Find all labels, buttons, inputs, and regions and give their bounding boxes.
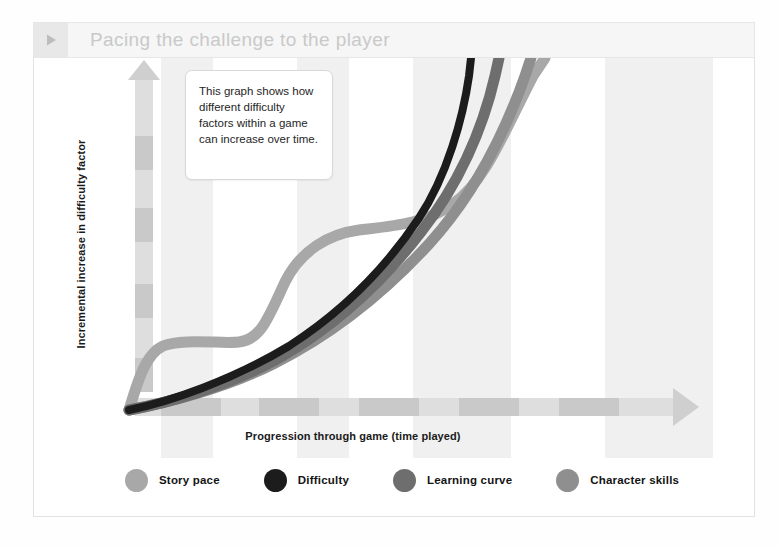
chart-canvas: This graph shows how different difficult…	[33, 58, 755, 458]
play-triangle-icon[interactable]	[34, 23, 68, 57]
chart-plot	[33, 58, 755, 458]
legend-label: Learning curve	[427, 474, 512, 486]
legend-dot-icon	[264, 469, 287, 492]
callout-text: This graph shows how different difficult…	[199, 83, 320, 147]
page-title: Pacing the challenge to the player	[90, 29, 390, 51]
legend-label: Difficulty	[298, 474, 349, 486]
legend-dot-icon	[125, 469, 148, 492]
chart-legend: Story pace Difficulty Learning curve Cha…	[33, 458, 755, 502]
right-arrow-icon	[135, 388, 699, 426]
legend-item-character-skills[interactable]: Character skills	[556, 469, 679, 492]
y-axis-label: Incremental increase in difficulty facto…	[75, 134, 87, 354]
legend-label: Character skills	[590, 474, 679, 486]
callout-box: This graph shows how different difficult…	[185, 70, 333, 180]
legend-dot-icon	[393, 469, 416, 492]
up-arrow-icon	[128, 60, 160, 392]
legend-dot-icon	[556, 469, 579, 492]
legend-item-learning-curve[interactable]: Learning curve	[393, 469, 512, 492]
slide-header-bar: Pacing the challenge to the player	[33, 22, 755, 58]
legend-item-difficulty[interactable]: Difficulty	[264, 469, 349, 492]
legend-label: Story pace	[159, 474, 220, 486]
legend-item-story-pace[interactable]: Story pace	[125, 469, 220, 492]
x-axis-label: Progression through game (time played)	[33, 430, 673, 442]
